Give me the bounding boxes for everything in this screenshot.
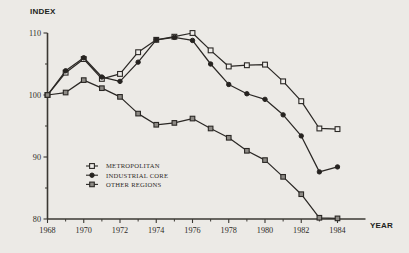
data-point-marker bbox=[90, 173, 94, 177]
data-point-marker bbox=[245, 149, 250, 154]
series-line bbox=[48, 33, 338, 129]
legend-item: INDUSTRIAL CORE bbox=[86, 172, 168, 179]
chart-legend: METROPOLITANINDUSTRIAL COREOTHER REGIONS bbox=[86, 162, 168, 187]
series-line bbox=[48, 37, 338, 172]
data-point-marker bbox=[245, 92, 249, 96]
series-group bbox=[45, 31, 340, 221]
data-point-marker bbox=[244, 63, 249, 68]
data-point-marker bbox=[136, 111, 141, 116]
x-tick-label: 1972 bbox=[112, 226, 128, 235]
data-point-marker bbox=[154, 122, 159, 127]
data-point-marker bbox=[299, 99, 304, 104]
legend-label: OTHER REGIONS bbox=[106, 181, 162, 188]
legend-item: OTHER REGIONS bbox=[86, 181, 162, 188]
data-point-marker bbox=[299, 192, 304, 197]
data-point-marker bbox=[172, 121, 177, 126]
x-tick-label: 1978 bbox=[221, 226, 237, 235]
data-point-marker bbox=[208, 62, 212, 66]
data-point-marker bbox=[154, 38, 158, 42]
x-tick-label: 1982 bbox=[293, 226, 309, 235]
data-point-marker bbox=[281, 79, 286, 84]
data-point-marker bbox=[82, 56, 86, 60]
data-point-marker bbox=[172, 35, 176, 39]
legend-item: METROPOLITAN bbox=[86, 162, 160, 169]
y-tick-label: 90 bbox=[33, 153, 41, 162]
x-tick-label: 1970 bbox=[76, 226, 92, 235]
data-point-marker bbox=[263, 97, 267, 101]
series-industrial-core bbox=[45, 35, 339, 174]
data-point-marker bbox=[281, 113, 285, 117]
data-point-marker bbox=[100, 75, 104, 79]
x-tick-label: 1974 bbox=[148, 226, 164, 235]
data-point-marker bbox=[136, 50, 141, 55]
data-point-marker bbox=[118, 72, 123, 77]
data-point-marker bbox=[63, 69, 67, 73]
data-point-marker bbox=[299, 134, 303, 138]
legend-label: METROPOLITAN bbox=[106, 162, 160, 169]
data-point-marker bbox=[208, 126, 213, 131]
data-point-marker bbox=[335, 165, 339, 169]
data-point-marker bbox=[63, 90, 68, 95]
data-point-marker bbox=[317, 215, 322, 220]
data-point-marker bbox=[227, 82, 231, 86]
x-axis-title: YEAR bbox=[370, 221, 393, 230]
data-point-marker bbox=[90, 164, 95, 169]
x-tick-label: 1976 bbox=[184, 226, 200, 235]
data-point-marker bbox=[100, 86, 105, 91]
y-tick-label: 110 bbox=[29, 29, 41, 38]
data-point-marker bbox=[317, 170, 321, 174]
x-tick-label: 1984 bbox=[329, 226, 345, 235]
y-axis-title: INDEX bbox=[30, 7, 56, 16]
data-point-marker bbox=[226, 135, 231, 140]
y-tick-labels: 8090100110 bbox=[29, 29, 41, 224]
chart-canvas: 8090100110 19681970197219741976197819801… bbox=[0, 0, 409, 253]
x-tick-labels: 196819701972197419761978198019821984 bbox=[39, 226, 345, 235]
series-line bbox=[48, 80, 338, 218]
data-point-marker bbox=[335, 127, 340, 132]
data-point-marker bbox=[190, 38, 194, 42]
x-tick-label: 1968 bbox=[39, 226, 55, 235]
data-point-marker bbox=[190, 116, 195, 121]
data-point-marker bbox=[118, 95, 123, 100]
data-point-marker bbox=[136, 60, 140, 64]
data-point-marker bbox=[118, 79, 122, 83]
y-tick-label: 80 bbox=[33, 215, 41, 224]
data-point-marker bbox=[45, 93, 50, 98]
data-point-marker bbox=[281, 175, 286, 180]
x-tick-label: 1980 bbox=[257, 226, 273, 235]
data-point-marker bbox=[208, 48, 213, 53]
data-point-marker bbox=[226, 64, 231, 69]
data-point-marker bbox=[263, 62, 268, 67]
data-point-marker bbox=[263, 158, 268, 163]
data-point-marker bbox=[317, 126, 322, 131]
legend-label: INDUSTRIAL CORE bbox=[106, 172, 168, 179]
series-other-regions bbox=[45, 78, 340, 221]
data-point-marker bbox=[90, 182, 95, 187]
data-point-marker bbox=[190, 31, 195, 36]
data-point-marker bbox=[81, 78, 86, 83]
data-point-marker bbox=[335, 216, 340, 221]
line-chart: 8090100110 19681970197219741976197819801… bbox=[0, 0, 409, 253]
y-tick-label: 100 bbox=[29, 91, 41, 100]
